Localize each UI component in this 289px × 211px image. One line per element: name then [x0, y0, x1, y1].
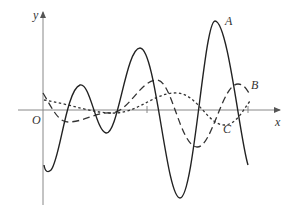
curve-a-label: A — [224, 14, 233, 28]
graph-diagram: y x O A B C — [0, 0, 289, 211]
curve-c-label: C — [223, 122, 232, 136]
y-axis-label: y — [32, 8, 39, 22]
x-axis-label: x — [274, 115, 281, 129]
curve-b — [43, 80, 249, 147]
curve-b-label: B — [251, 78, 259, 92]
origin-label: O — [32, 113, 41, 127]
